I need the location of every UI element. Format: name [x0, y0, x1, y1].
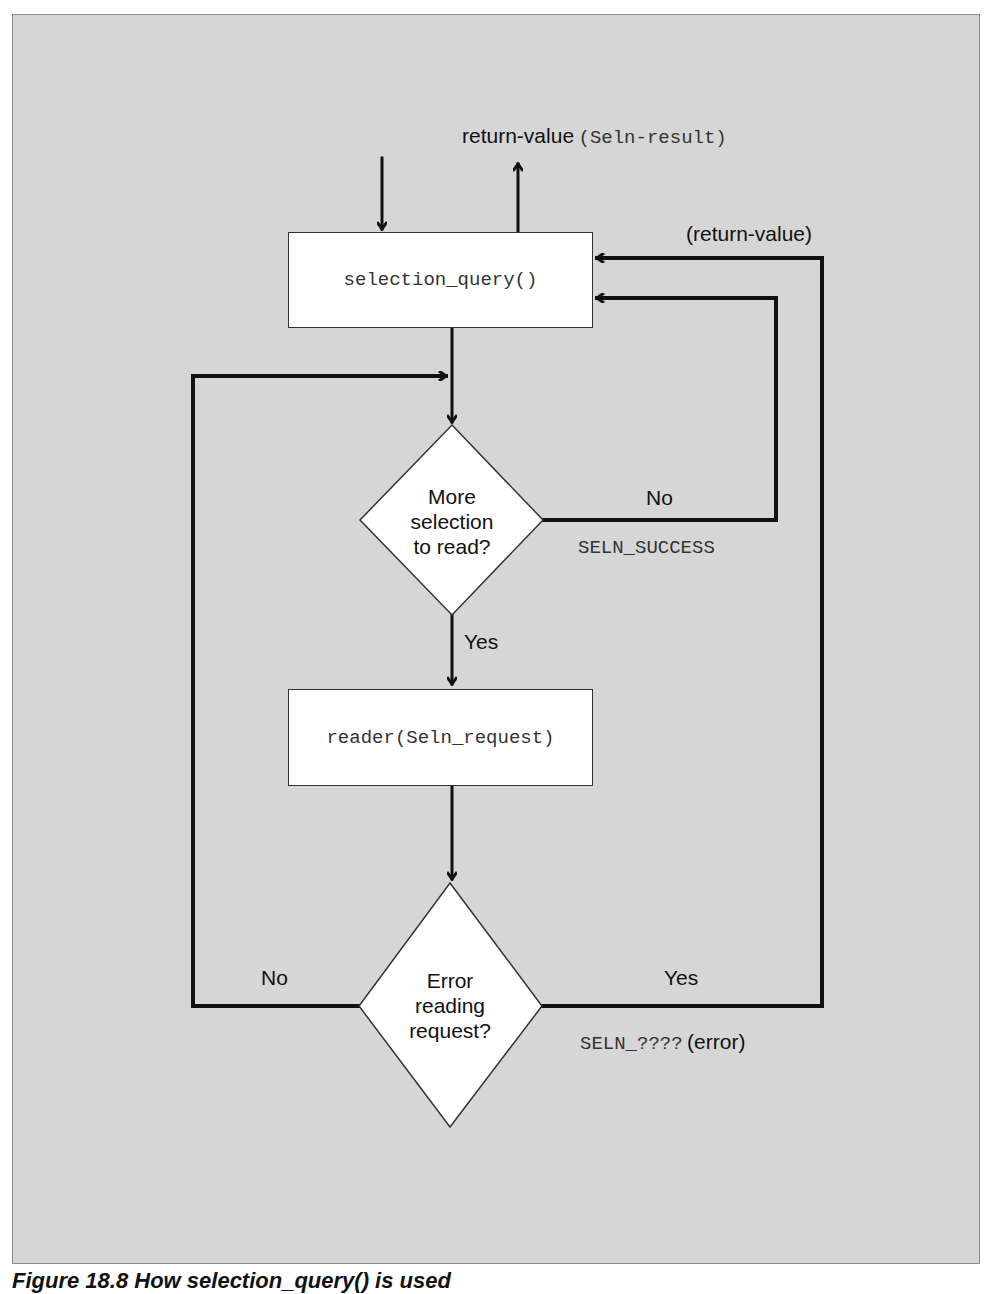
decision-line: selection [382, 509, 522, 534]
return-value-text: return-value [462, 124, 574, 147]
reader-box: reader(Seln_request) [288, 689, 593, 786]
more-yes-label: Yes [464, 630, 498, 654]
error-suffix: (error) [687, 1030, 745, 1053]
error-reading-text: Error reading request? [380, 968, 520, 1043]
more-no-label: No [646, 486, 673, 510]
selection-query-label: selection_query() [344, 269, 538, 291]
figure-caption: Figure 18.8 How selection_query() is use… [12, 1268, 451, 1294]
seln-success-label: SELN_SUCCESS [578, 537, 715, 559]
loop-return-value-label: (return-value) [686, 222, 812, 246]
decision-line: reading [380, 993, 520, 1018]
decision-line: More [382, 484, 522, 509]
decision-line: Error [380, 968, 520, 993]
selection-query-box: selection_query() [288, 232, 593, 328]
reader-label: reader(Seln_request) [326, 727, 554, 749]
more-selection-text: More selection to read? [382, 484, 522, 559]
error-yes-loop [543, 258, 822, 1006]
error-yes-label: Yes [664, 966, 698, 990]
seln-error-label: SELN_???? (error) [580, 1030, 745, 1055]
decision-line: request? [380, 1018, 520, 1043]
decision-line: to read? [382, 534, 522, 559]
seln-result-code: (Seln-result) [579, 127, 727, 149]
error-no-label: No [261, 966, 288, 990]
seln-error-code: SELN_???? [580, 1033, 683, 1055]
return-value-label: return-value (Seln-result) [462, 124, 727, 149]
